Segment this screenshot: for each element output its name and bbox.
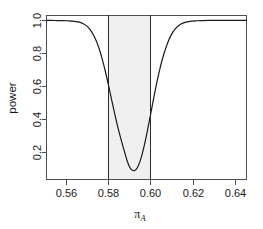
y-axis-title: power [6, 82, 18, 113]
y-axis-tick-label: 0.4 [31, 112, 43, 127]
x-axis-tick-label: 0.60 [140, 187, 161, 199]
x-axis-tick-label: 0.64 [225, 187, 246, 199]
shaded-region [108, 16, 150, 180]
x-axis-tick-label: 0.62 [183, 187, 204, 199]
x-axis-tick-label: 0.58 [98, 187, 119, 199]
y-axis-tick-label: 0.6 [31, 79, 43, 94]
x-axis-title-subscript: A [139, 213, 146, 223]
x-axis-title: πA [134, 207, 146, 223]
chart-svg: 0.20.40.60.81.0 0.560.580.600.620.64 pow… [0, 0, 263, 229]
y-axis-tick-label: 1.0 [31, 13, 43, 28]
y-axis-tick-labels: 0.20.40.60.81.0 [31, 13, 43, 160]
x-axis-ticks [67, 180, 236, 185]
power-curve-figure: 0.20.40.60.81.0 0.560.580.600.620.64 pow… [0, 0, 263, 229]
x-axis-tick-label: 0.56 [56, 187, 77, 199]
y-axis-tick-label: 0.2 [31, 145, 43, 160]
y-axis-tick-label: 0.8 [31, 46, 43, 61]
x-axis-tick-labels: 0.560.580.600.620.64 [56, 187, 246, 199]
